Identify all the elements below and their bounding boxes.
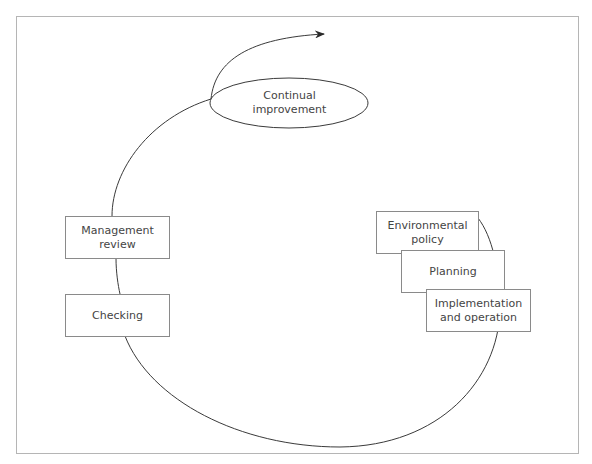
management-review-box: Management review <box>65 216 170 259</box>
cycle-path-segment-review-to-improvement <box>112 99 211 216</box>
implementation-operation-box: Implementation and operation <box>426 289 531 332</box>
planning-box: Planning <box>401 250 505 293</box>
continual-improvement-label: Continual improvement <box>211 78 368 128</box>
checking-box: Checking <box>65 294 170 337</box>
environmental-policy-box: Environmental policy <box>376 211 479 254</box>
cycle-path-segment-checking-to-review <box>116 258 120 294</box>
